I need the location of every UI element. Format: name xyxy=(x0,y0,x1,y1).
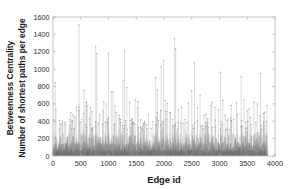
x-tick-label: 3000 xyxy=(212,159,228,168)
y-tick-label: 1200 xyxy=(34,47,50,56)
y-tick-label: 1400 xyxy=(34,30,50,39)
x-tick-label: 0 xyxy=(51,159,55,168)
chart-figure: 05001000150020002500300035004000 0200400… xyxy=(0,0,297,189)
y-tick-label: 200 xyxy=(38,134,50,143)
x-tick-label: 4000 xyxy=(267,159,283,168)
y-tick-label: 1600 xyxy=(34,13,50,22)
x-tick-label: 1000 xyxy=(101,159,117,168)
y-tick-label: 400 xyxy=(38,117,50,126)
x-axis-title: Edge id xyxy=(147,175,181,185)
y-axis-title-line2: Number of shortest paths per edge xyxy=(17,18,27,157)
y-axis-title-line1: Betweenness Centrality xyxy=(5,40,15,135)
y-tick-label: 800 xyxy=(38,82,50,91)
x-tick-label: 2000 xyxy=(156,159,172,168)
y-tick-label: 1000 xyxy=(34,65,50,74)
x-tick-label: 2500 xyxy=(184,159,200,168)
y-tick-label: 0 xyxy=(46,152,50,161)
betweenness-centrality-stem-plot: 05001000150020002500300035004000 0200400… xyxy=(0,0,297,189)
x-tick-label: 500 xyxy=(75,159,87,168)
y-tick-label: 600 xyxy=(38,99,50,108)
x-tick-label: 1500 xyxy=(128,159,144,168)
x-tick-label: 3500 xyxy=(239,159,255,168)
